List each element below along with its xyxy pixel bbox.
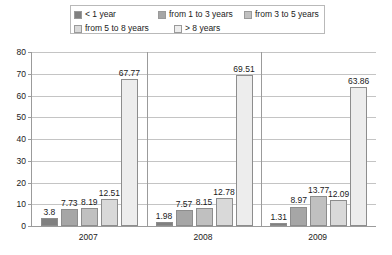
chart-legend: < 1 year from 1 to 3 years from 3 to 5 y… bbox=[70, 5, 325, 34]
legend-row-2: from 5 to 8 years > 8 years bbox=[74, 22, 324, 35]
bar-value-label: 69.51 bbox=[228, 65, 261, 74]
legend-item-3: from 5 to 8 years bbox=[74, 22, 174, 35]
y-axis-tick-label: 50 bbox=[17, 113, 26, 122]
gridline bbox=[32, 117, 376, 118]
bar[interactable] bbox=[101, 199, 118, 226]
gridline bbox=[32, 96, 376, 97]
y-axis-tick bbox=[28, 161, 32, 162]
legend-swatch-icon-2 bbox=[244, 11, 252, 19]
bar-chart: < 1 year from 1 to 3 years from 3 to 5 y… bbox=[0, 0, 392, 255]
legend-item-0: < 1 year bbox=[74, 8, 158, 21]
y-axis-tick bbox=[28, 96, 32, 97]
bar[interactable] bbox=[310, 196, 327, 226]
x-axis-tick-label: 2008 bbox=[146, 233, 261, 242]
bar[interactable] bbox=[61, 209, 78, 226]
y-axis-tick bbox=[28, 139, 32, 140]
y-axis-tick-label: 30 bbox=[17, 156, 26, 165]
y-axis-tick-label: 40 bbox=[17, 135, 26, 144]
gridline bbox=[32, 183, 376, 184]
legend-label-1: from 1 to 3 years bbox=[169, 10, 233, 19]
bar[interactable] bbox=[270, 223, 287, 226]
legend-label-0: < 1 year bbox=[85, 10, 116, 19]
plot-area: 3.87.738.1912.5167.771.987.578.1512.7869… bbox=[31, 52, 376, 227]
bar[interactable] bbox=[330, 200, 347, 226]
y-axis-tick-label: 10 bbox=[17, 200, 26, 209]
gridline bbox=[32, 161, 376, 162]
y-axis-tick-label: 20 bbox=[17, 178, 26, 187]
legend-swatch-icon-3 bbox=[74, 25, 82, 33]
y-axis-tick bbox=[28, 226, 32, 227]
y-axis-tick bbox=[28, 117, 32, 118]
y-axis-tick bbox=[28, 52, 32, 53]
legend-swatch-icon-0 bbox=[74, 11, 82, 19]
y-axis-tick-label: 0 bbox=[21, 222, 26, 231]
bar-value-label: 63.86 bbox=[342, 77, 375, 86]
legend-swatch-icon-1 bbox=[158, 11, 166, 19]
y-axis-tick-labels: 01020304050607080 bbox=[0, 52, 29, 227]
legend-item-4: > 8 years bbox=[174, 22, 220, 35]
bar[interactable] bbox=[236, 75, 253, 226]
bar[interactable] bbox=[290, 207, 307, 227]
y-axis-tick-label: 80 bbox=[17, 48, 26, 57]
legend-item-1: from 1 to 3 years bbox=[158, 8, 244, 21]
bar-value-label: 67.77 bbox=[113, 69, 146, 78]
bar[interactable] bbox=[350, 87, 367, 226]
bar[interactable] bbox=[176, 210, 193, 226]
group-separator bbox=[147, 52, 148, 226]
bar[interactable] bbox=[81, 208, 98, 226]
bar[interactable] bbox=[196, 208, 213, 226]
bar[interactable] bbox=[216, 198, 233, 226]
x-axis-tick-label: 2009 bbox=[260, 233, 375, 242]
gridline bbox=[32, 74, 376, 75]
y-axis-tick-label: 70 bbox=[17, 69, 26, 78]
x-axis-tick-label: 2007 bbox=[31, 233, 146, 242]
gridline bbox=[32, 52, 376, 53]
group-separator bbox=[261, 52, 262, 226]
y-axis-tick bbox=[28, 74, 32, 75]
legend-swatch-icon-4 bbox=[174, 25, 182, 33]
legend-item-2: from 3 to 5 years bbox=[244, 8, 319, 21]
legend-label-2: from 3 to 5 years bbox=[255, 10, 319, 19]
y-axis-tick-label: 60 bbox=[17, 91, 26, 100]
bar[interactable] bbox=[121, 79, 138, 226]
y-axis-tick bbox=[28, 183, 32, 184]
legend-label-3: from 5 to 8 years bbox=[85, 24, 149, 33]
gridline bbox=[32, 139, 376, 140]
bar[interactable] bbox=[156, 222, 173, 226]
legend-label-4: > 8 years bbox=[185, 24, 220, 33]
legend-row-1: < 1 year from 1 to 3 years from 3 to 5 y… bbox=[74, 8, 324, 21]
bar[interactable] bbox=[41, 218, 58, 226]
y-axis-tick bbox=[28, 204, 32, 205]
